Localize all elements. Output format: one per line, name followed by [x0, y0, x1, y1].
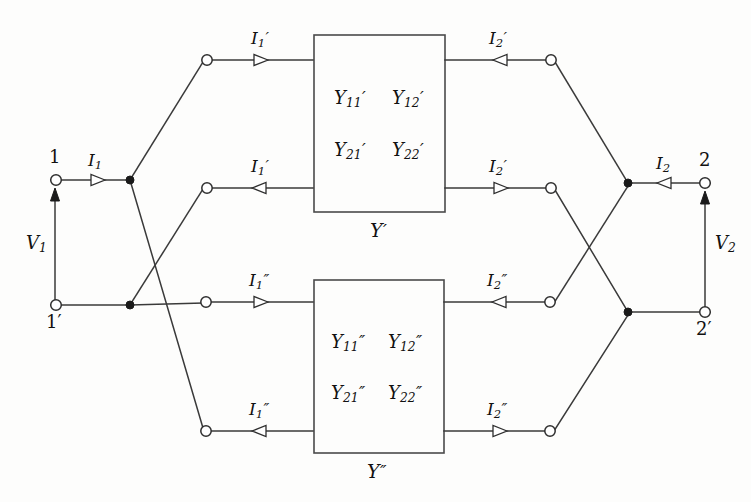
circuit-schematic-svg: [0, 0, 751, 502]
junction-dot-right-bottom: [624, 308, 632, 316]
i2-dprime-bottom-arrowhead-icon: [493, 426, 507, 437]
caption-y-prime: Y′: [370, 221, 387, 240]
i2-arrowhead-icon: [657, 178, 671, 189]
network-box-y-prime: [314, 35, 445, 212]
port-node-ytop-out-upper[interactable]: [546, 55, 556, 65]
wire-topjunction-to-ytop-in: [130, 62, 203, 180]
label-terminal-1-prime: 1′: [46, 313, 62, 331]
label-i2-dprime-top: I2″: [487, 272, 507, 292]
label-i1-prime-top: I1′: [251, 30, 269, 50]
wire-ybot-lower-node-to-right-top-junction: [554, 315, 628, 431]
i2-prime-top-arrowhead-icon: [493, 55, 507, 66]
i2-prime-bottom-arrowhead-icon: [494, 183, 508, 194]
terminal-node-1[interactable]: [51, 175, 62, 186]
label-y21-prime: Y21′: [334, 141, 366, 162]
terminal-node-2-prime[interactable]: [700, 307, 711, 318]
junction-dot-right-top: [624, 179, 632, 187]
junction-dot-left-bottom: [126, 301, 134, 309]
label-v1: V1: [26, 234, 47, 255]
wire-botjunction-to-ybot-in: [130, 303, 203, 305]
wire-ybot-upper-node-to-right-bot-junction: [554, 186, 628, 303]
label-y12-dprime: Y12″: [388, 333, 422, 354]
label-v2: V2: [715, 234, 736, 255]
wire-ytop-upper-node-to-right-top-junction: [555, 62, 628, 183]
i1-prime-top-arrowhead-icon: [254, 55, 268, 66]
port-node-ybot-out-lower[interactable]: [545, 426, 555, 436]
wire-botjunction-to-ytop-lower-in: [130, 189, 203, 305]
port-node-ytop-in-upper[interactable]: [202, 55, 212, 65]
port-node-ytop-out-lower[interactable]: [546, 183, 556, 193]
label-i1: I1: [88, 152, 102, 172]
label-i1-dprime-top: I1″: [249, 272, 269, 292]
terminal-node-1-prime[interactable]: [51, 300, 62, 311]
network-box-y-double-prime: [314, 280, 444, 453]
port-node-ybot-out-upper[interactable]: [545, 297, 555, 307]
caption-y-double-prime: Y″: [367, 462, 387, 481]
label-i2-dprime-bottom: I2″: [487, 401, 507, 421]
terminal-node-2[interactable]: [700, 178, 711, 189]
circuit-diagram-canvas: 1 1′ 2 2′ V1 V2 I1 I2 I1′ I1′ I2′ I2′ I1…: [0, 0, 751, 502]
label-y22-prime: Y22′: [392, 141, 424, 162]
v2-arrowhead-icon: [701, 191, 710, 204]
label-i1-prime-bottom: I1′: [251, 158, 269, 178]
label-i1-dprime-bottom: I1″: [249, 401, 269, 421]
i1-dprime-bottom-arrowhead-icon: [252, 426, 266, 437]
port-node-ybot-in-upper[interactable]: [201, 297, 211, 307]
port-node-ytop-in-lower[interactable]: [202, 183, 212, 193]
i2-dprime-top-arrowhead-icon: [492, 297, 506, 308]
port-node-ybot-in-lower[interactable]: [201, 426, 211, 436]
label-terminal-2-prime: 2′: [696, 320, 712, 338]
wire-ytop-lower-node-to-right-bot-junction: [555, 190, 628, 312]
label-terminal-2: 2: [699, 151, 710, 169]
label-y21-dprime: Y21″: [331, 384, 365, 405]
label-y11-prime: Y11′: [334, 89, 366, 110]
i1-arrowhead-icon: [91, 175, 105, 186]
v1-arrowhead-icon: [51, 188, 60, 201]
label-y11-dprime: Y11″: [331, 333, 365, 354]
label-y22-dprime: Y22″: [388, 384, 422, 405]
label-terminal-1: 1: [49, 148, 60, 166]
label-i2-prime-bottom: I2′: [489, 158, 507, 178]
i1-dprime-top-arrowhead-icon: [254, 297, 268, 308]
label-i2-prime-top: I2′: [489, 30, 507, 50]
label-i2: I2: [656, 155, 670, 175]
i1-prime-bottom-arrowhead-icon: [252, 183, 266, 194]
label-y12-prime: Y12′: [392, 89, 424, 110]
junction-dot-left-top: [126, 176, 134, 184]
